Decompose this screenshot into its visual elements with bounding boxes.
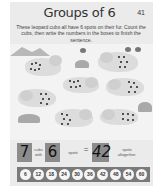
total-answer-box[interactable]: 42 (92, 143, 109, 162)
strip-number: 42 (97, 169, 108, 180)
mountain-icon (10, 46, 50, 56)
instructions: These leopard cubs all have 6 spots on t… (12, 24, 150, 43)
total-label: spots altogether. (113, 147, 141, 157)
leopard-cub-icon (100, 109, 138, 125)
leopard-cub-icon (98, 52, 138, 72)
counting-strip: 6 12 18 24 30 36 42 48 54 60 (17, 167, 150, 182)
strip-number: 12 (33, 169, 44, 180)
strip-number: 48 (110, 169, 121, 180)
number-sentence: 7 cubs with 6 spots = 42 spots altogethe… (17, 143, 147, 163)
rock-icon (18, 114, 40, 123)
tree-icon (135, 47, 141, 52)
page-number: 41 (137, 9, 145, 16)
tree-icon (125, 47, 131, 52)
strip-number: 60 (136, 169, 147, 180)
strip-number: 6 (20, 169, 31, 180)
spots-label: spots (66, 150, 80, 155)
leopard-cub-icon (55, 109, 93, 127)
leopard-cub-icon (25, 58, 61, 76)
cubs-label: cubs with (33, 147, 44, 157)
leopard-cub-icon (106, 78, 144, 96)
spots-answer-box[interactable]: 6 (45, 143, 60, 162)
strip-number: 24 (59, 169, 70, 180)
rock-icon (138, 102, 152, 112)
strip-number: 18 (46, 169, 57, 180)
leopard-cub-icon (63, 77, 99, 93)
page-title: Groups of 6 (0, 5, 159, 20)
rock-icon (75, 60, 89, 68)
strip-number: 30 (72, 169, 83, 180)
strip-number: 36 (84, 169, 95, 180)
cubs-answer-box[interactable]: 7 (17, 143, 32, 162)
tree-icon (80, 48, 86, 53)
leopard-cub-icon (18, 89, 56, 107)
leopard-illustration (10, 44, 153, 140)
strip-number: 54 (123, 169, 134, 180)
equals-sign: = (83, 147, 89, 152)
